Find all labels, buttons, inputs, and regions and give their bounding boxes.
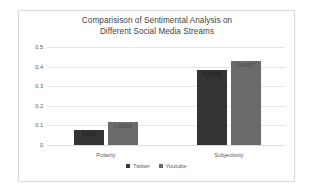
bar-youtube-polarity[interactable]: 0.115288: [108, 122, 138, 145]
y-axis-tick-0.3: 0.3: [35, 83, 43, 89]
bar-twitter-polarity[interactable]: 0.0766: [74, 130, 104, 145]
bar-value-label: 0.0766: [74, 132, 104, 137]
chart-title-line-2: Different Social Media Streams: [31, 26, 283, 37]
legend-item-youtube[interactable]: Youtube: [159, 163, 187, 169]
chart-title: Comparisison of Sentimental Analysis on …: [31, 15, 283, 37]
bar-value-label: 0.430627: [231, 63, 261, 68]
plot-area: 0.5 0.4 0.3 0.2 0.1 0 0.0766 0.115288 Po…: [47, 47, 285, 145]
y-axis-tick-0.1: 0.1: [35, 122, 43, 128]
y-axis-tick-0.4: 0.4: [35, 64, 43, 70]
bar-value-label: 0.382148: [197, 72, 227, 77]
legend-swatch-icon: [126, 164, 130, 168]
y-axis-tick-0: 0: [40, 142, 43, 148]
bar-twitter-subjectivity[interactable]: 0.382148: [197, 70, 227, 145]
chart-title-line-1: Comparisison of Sentimental Analysis on: [31, 15, 283, 26]
x-axis-tick-subjectivity: Subjectivity: [197, 152, 261, 158]
legend-item-twitter[interactable]: Twitter: [126, 163, 150, 169]
bar-value-label: 0.115288: [108, 124, 138, 129]
bar-group-polarity: 0.0766 0.115288 Polarity: [74, 47, 138, 145]
legend-swatch-icon: [159, 164, 163, 168]
bar-group-subjectivity: 0.382148 0.430627 Subjectivity: [197, 47, 261, 145]
bar-youtube-subjectivity[interactable]: 0.430627: [231, 61, 261, 145]
chart-legend: Twitter Youtube: [19, 163, 294, 169]
legend-label-youtube: Youtube: [166, 163, 187, 169]
gridline-0: 0: [47, 145, 285, 146]
legend-label-twitter: Twitter: [133, 163, 150, 169]
y-axis-tick-0.2: 0.2: [35, 103, 43, 109]
x-axis-tick-polarity: Polarity: [74, 152, 138, 158]
chart-frame: Comparisison of Sentimental Analysis on …: [18, 10, 295, 182]
y-axis-tick-0.5: 0.5: [35, 44, 43, 50]
